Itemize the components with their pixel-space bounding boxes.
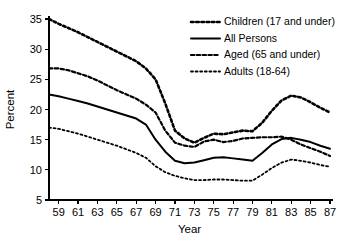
chart-container: 5101520253035596163656769717375777981838… [0, 0, 353, 250]
line-chart: 5101520253035596163656769717375777981838… [0, 0, 353, 250]
x-axis-title: Year [178, 223, 201, 235]
y-tick-label: 25 [30, 73, 42, 85]
x-tick-label: 61 [72, 206, 84, 218]
series-line-1 [49, 19, 330, 143]
x-tick-label: 83 [285, 206, 297, 218]
legend-label: Aged (65 and under) [224, 48, 320, 60]
x-tick-label: 63 [91, 206, 103, 218]
x-tick-label: 79 [246, 206, 258, 218]
x-tick-label: 75 [208, 206, 220, 218]
chart-legend: Children (17 and under)All PersonsAged (… [191, 15, 335, 77]
legend-label: All Persons [224, 32, 277, 44]
series-line-3 [49, 68, 330, 155]
y-tick-label: 5 [36, 194, 42, 206]
x-tick-label: 81 [266, 206, 278, 218]
legend-label: Adults (18-64) [224, 65, 290, 77]
y-tick-label: 15 [30, 134, 42, 146]
series-line-4 [49, 128, 330, 181]
x-tick-label: 85 [304, 206, 316, 218]
series-line-2 [49, 94, 330, 163]
x-tick-label: 77 [227, 206, 239, 218]
x-tick-label: 67 [130, 206, 142, 218]
y-axis-title: Percent [4, 89, 16, 129]
x-tick-label: 65 [111, 206, 123, 218]
legend-label: Children (17 and under) [224, 15, 335, 27]
x-tick-label: 71 [169, 206, 181, 218]
x-tick-label: 73 [188, 206, 200, 218]
x-tick-label: 87 [324, 206, 336, 218]
y-tick-label: 20 [30, 104, 42, 116]
y-tick-label: 10 [30, 164, 42, 176]
y-tick-label: 35 [30, 13, 42, 25]
x-tick-label: 59 [53, 206, 65, 218]
x-tick-label: 69 [149, 206, 161, 218]
y-tick-label: 30 [30, 43, 42, 55]
